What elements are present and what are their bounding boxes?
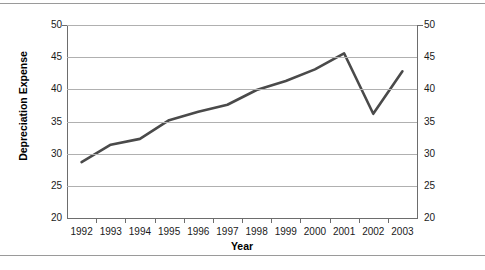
x-tick-mark-5 (213, 219, 214, 223)
gridline-45 (67, 57, 417, 58)
x-tick-mark-10 (359, 219, 360, 223)
x-tick-mark-7 (271, 219, 272, 223)
y-tick-right-30: 30 (424, 149, 435, 159)
y-axis-right-tick-labels: 50454035302520 (424, 8, 454, 252)
y-axis-right-line (417, 25, 418, 219)
y-tick-right-40: 40 (424, 84, 435, 94)
y-tick-left-40: 40 (33, 84, 62, 94)
y-tick-right-20: 20 (424, 213, 435, 223)
x-axis-title: Year (67, 240, 417, 252)
x-tick-mark-8 (300, 219, 301, 223)
x-tick-mark-6 (242, 219, 243, 223)
gridline-35 (67, 122, 417, 123)
chart-page: Depreciation Expense 50454035302520 5045… (0, 0, 485, 270)
x-tick-label-2003: 2003 (382, 226, 422, 237)
gridline-30 (67, 154, 417, 155)
x-tick-mark-11 (388, 219, 389, 223)
y-axis-left-tick-labels: 50454035302520 (33, 8, 62, 252)
y-tick-left-30: 30 (33, 149, 62, 159)
x-tick-mark-2 (125, 219, 126, 223)
x-tick-mark-4 (184, 219, 185, 223)
bottom-divider-rule (0, 255, 485, 256)
gridline-50 (67, 25, 417, 26)
y-tick-left-25: 25 (33, 181, 62, 191)
y-tick-right-45: 45 (424, 52, 435, 62)
y-tick-left-45: 45 (33, 52, 62, 62)
y-tick-left-35: 35 (33, 117, 62, 127)
axis-cap-right (418, 25, 423, 26)
gridline-25 (67, 186, 417, 187)
top-divider-rule (0, 3, 485, 4)
x-tick-mark-9 (330, 219, 331, 223)
plot-area (67, 25, 417, 218)
line-chart: Depreciation Expense 50454035302520 5045… (0, 8, 485, 252)
gridline-40 (67, 89, 417, 90)
axis-cap-left (62, 25, 67, 26)
y-axis-title: Depreciation Expense (17, 31, 29, 181)
y-tick-left-50: 50 (33, 20, 62, 30)
y-tick-right-35: 35 (424, 117, 435, 127)
y-tick-left-20: 20 (33, 213, 62, 223)
x-tick-mark-1 (96, 219, 97, 223)
y-tick-right-25: 25 (424, 181, 435, 191)
x-tick-mark-3 (155, 219, 156, 223)
y-tick-right-50: 50 (424, 20, 435, 30)
